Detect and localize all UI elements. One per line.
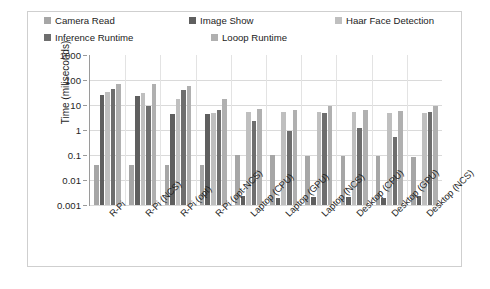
bar — [257, 109, 262, 205]
bar-group — [125, 55, 160, 205]
chart-plot-area: Time (miliseconds) 10001001010.10.010.00… — [27, 11, 462, 267]
legend-swatch-icon — [189, 17, 196, 24]
bar — [357, 128, 362, 205]
legend-item-haar-face-detection: Haar Face Detection — [335, 15, 434, 26]
y-tick-mark — [83, 205, 87, 206]
bar — [187, 86, 192, 205]
bar — [222, 99, 227, 205]
y-tick-label: 100 — [65, 75, 81, 86]
bar — [433, 106, 438, 205]
y-tick-label: 0.01 — [62, 175, 81, 186]
y-tick-label: 1 — [76, 125, 81, 136]
bar-group — [90, 55, 125, 205]
y-tick-mark — [83, 105, 87, 106]
legend-label: Looop Runtime — [222, 32, 287, 43]
bar — [181, 90, 186, 205]
legend-label: Inference Runtime — [55, 32, 133, 43]
legend-item-inference-runtime: Inference Runtime — [44, 32, 211, 43]
legend-row-2: Inference RuntimeLooop Runtime — [44, 29, 434, 46]
bar — [116, 84, 121, 205]
bar — [428, 112, 433, 206]
legend-item-camera-read: Camera Read — [44, 15, 189, 26]
bar — [105, 92, 110, 205]
legend-item-looop-runtime: Looop Runtime — [211, 32, 379, 43]
y-tick-label: 10 — [70, 100, 81, 111]
bar — [152, 84, 157, 205]
y-tick-label: 1000 — [60, 50, 81, 61]
bar — [322, 113, 327, 205]
bar — [252, 121, 257, 205]
legend-label: Image Show — [200, 15, 253, 26]
bar — [217, 110, 222, 205]
y-tick-mark — [83, 155, 87, 156]
bar — [100, 95, 105, 205]
bar — [293, 110, 298, 205]
bar — [381, 198, 386, 205]
legend-swatch-icon — [44, 17, 51, 24]
y-tick-mark — [83, 180, 87, 181]
legend-swatch-icon — [335, 17, 342, 24]
bar — [141, 93, 146, 205]
chart-legend: Camera ReadImage ShowHaar Face Detection… — [44, 12, 434, 46]
bar — [398, 111, 403, 205]
bar — [287, 131, 292, 205]
legend-row-1: Camera ReadImage ShowHaar Face Detection — [44, 12, 434, 29]
legend-label: Haar Face Detection — [346, 15, 434, 26]
bar — [363, 110, 368, 205]
legend-item-image-show: Image Show — [189, 15, 335, 26]
bar — [328, 106, 333, 205]
bar — [276, 198, 281, 205]
bar — [311, 197, 316, 205]
bar-group — [196, 55, 231, 205]
y-tick-label: 0.001 — [57, 200, 81, 211]
legend-label: Camera Read — [55, 15, 115, 26]
y-tick-label: 0.1 — [68, 150, 81, 161]
bar — [111, 89, 116, 205]
y-tick-mark — [83, 80, 87, 81]
bar — [135, 96, 140, 205]
legend-swatch-icon — [211, 34, 218, 41]
y-tick-mark — [83, 130, 87, 131]
bar — [146, 106, 151, 205]
legend-swatch-icon — [44, 34, 51, 41]
y-tick-mark — [83, 55, 87, 56]
bar — [94, 165, 99, 205]
x-axis-tick-labels: R-PiR-Pi (NCS)R-Pi (opt)R-Pi (opt-NCS)La… — [89, 207, 441, 289]
y-axis-tick-labels: 10001001010.10.010.001 — [41, 11, 87, 267]
bar — [129, 165, 134, 205]
